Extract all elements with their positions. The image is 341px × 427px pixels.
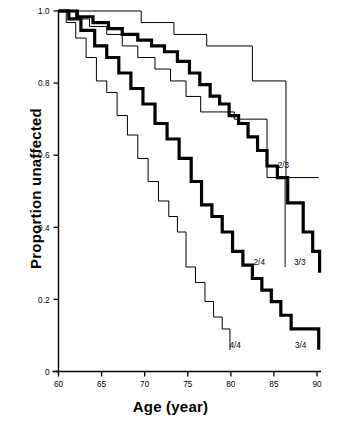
y-axis-tick-label: 0.2 bbox=[38, 296, 50, 305]
series-line-4-4 bbox=[59, 11, 230, 350]
survival-curve-figure: 00.20.40.60.81.060657075808590 2/32/43/3… bbox=[0, 0, 341, 427]
x-axis-tick-label: 60 bbox=[54, 380, 64, 389]
tick-label-layer: 00.20.40.60.81.060657075808590 bbox=[38, 7, 322, 388]
y-axis-tick-label: 0.8 bbox=[38, 79, 50, 88]
series-end-label-4-4: 4/4 bbox=[229, 341, 241, 350]
series-end-label-2-4: 2/4 bbox=[254, 258, 266, 267]
x-axis-tick-label: 65 bbox=[97, 380, 107, 389]
series-line-2-3 bbox=[59, 11, 319, 178]
series-end-label-2-3: 2/3 bbox=[278, 161, 290, 170]
x-axis-title: Age (year) bbox=[0, 398, 341, 415]
series-line-3-3 bbox=[59, 11, 320, 273]
x-axis-tick-label: 75 bbox=[183, 380, 193, 389]
series-end-label-layer: 2/32/43/34/43/4 bbox=[229, 161, 306, 350]
y-axis-tick-label: 1.0 bbox=[38, 7, 50, 16]
series-end-label-3-4: 3/4 bbox=[295, 341, 307, 350]
series-layer bbox=[59, 11, 320, 350]
y-axis-tick-label: 0 bbox=[45, 368, 50, 377]
x-axis-tick-label: 70 bbox=[140, 380, 150, 389]
series-end-label-3-3: 3/3 bbox=[294, 258, 306, 267]
x-axis-tick-label: 85 bbox=[269, 380, 279, 389]
y-axis-title: Proportion unaffected bbox=[27, 89, 44, 289]
axes-layer bbox=[53, 10, 322, 377]
plot-canvas: 00.20.40.60.81.060657075808590 2/32/43/3… bbox=[0, 0, 341, 427]
x-axis-tick-label: 90 bbox=[312, 380, 322, 389]
x-axis-tick-label: 80 bbox=[226, 380, 236, 389]
